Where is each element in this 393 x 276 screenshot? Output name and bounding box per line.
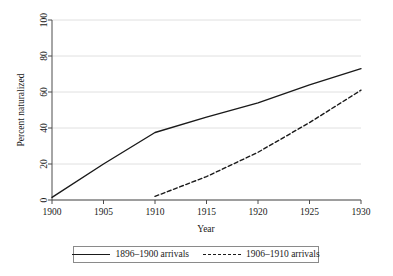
legend-label-solid: 1896–1900 arrivals — [115, 250, 189, 260]
x-tick-label: 1915 — [197, 207, 216, 217]
y-tick-label: 100 — [39, 13, 49, 28]
legend-swatch-dashed-icon — [203, 254, 241, 255]
y-tick-label: 20 — [39, 159, 49, 169]
series-line-1 — [52, 69, 361, 198]
legend-entry-solid: 1896–1900 arrivals — [72, 250, 189, 260]
chart-figure: 020406080100 190019051910191519201925193… — [0, 0, 393, 276]
x-tick-label: 1905 — [94, 207, 113, 217]
x-axis: 1900190519101915192019251930 — [43, 200, 371, 217]
y-axis-title: Percent naturalized — [16, 73, 26, 146]
x-tick-label: 1920 — [249, 207, 268, 217]
x-tick-label: 1900 — [43, 207, 62, 217]
y-tick-label: 80 — [39, 51, 49, 61]
x-tick-label: 1910 — [146, 207, 165, 217]
x-tick-label: 1930 — [352, 207, 371, 217]
line-chart-plot: 020406080100 190019051910191519201925193… — [0, 0, 393, 276]
data-series-group — [52, 69, 361, 198]
legend-entry-dashed: 1906–1910 arrivals — [203, 250, 320, 260]
series-line-2 — [155, 90, 361, 196]
chart-legend: 1896–1900 arrivals 1906–1910 arrivals — [73, 246, 319, 263]
y-tick-label: 0 — [39, 197, 49, 202]
x-axis-title: Year — [197, 224, 215, 234]
y-tick-label: 60 — [39, 87, 49, 97]
legend-label-dashed: 1906–1910 arrivals — [246, 250, 320, 260]
y-axis: 020406080100 — [39, 13, 52, 203]
y-tick-label: 40 — [39, 123, 49, 133]
x-tick-label: 1925 — [300, 207, 319, 217]
legend-swatch-solid-icon — [72, 254, 110, 255]
gridlines — [52, 20, 361, 200]
